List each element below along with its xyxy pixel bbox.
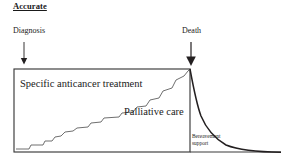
label-specific-anticancer-treatment: Specific anticancer treatment xyxy=(20,78,142,89)
page-title: Accurate xyxy=(13,2,47,11)
label-bereavement-support: Bereavement support xyxy=(192,133,232,147)
label-diagnosis: Diagnosis xyxy=(13,27,45,35)
label-palliative-care: Palliative care xyxy=(124,106,184,117)
label-death: Death xyxy=(182,27,201,35)
death-down-arrow-icon xyxy=(186,42,196,66)
figure-accurate-care-model: Accurate Diagnosis Death Specific antica… xyxy=(0,0,283,164)
diagnosis-down-arrow-icon xyxy=(21,42,27,65)
